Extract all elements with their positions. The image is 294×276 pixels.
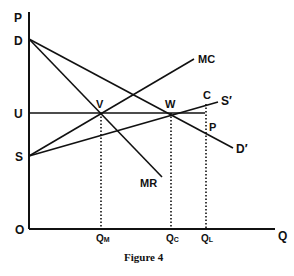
price-label-s: S (15, 150, 23, 164)
curve-label-d-prime: D′ (236, 142, 248, 156)
supply-curve (29, 102, 218, 156)
origin-label: O (15, 223, 24, 237)
point-label-p: P (209, 121, 216, 133)
point-label-w: W (165, 98, 176, 110)
figure-4: P Q O D U S QM QC QL MC S′ D′ MR V W C P… (0, 0, 294, 276)
quantity-label-ql: QL (201, 233, 214, 244)
figure-caption: Figure 4 (124, 251, 164, 263)
y-axis-label: P (14, 11, 22, 25)
price-label-d: D (14, 34, 23, 48)
quantity-label-qm: QM (96, 233, 110, 244)
curve-label-mr: MR (140, 177, 157, 189)
economics-diagram: P Q O D U S QM QC QL MC S′ D′ MR V W C P… (0, 0, 294, 276)
quantity-label-qc: QC (166, 233, 179, 244)
point-label-v: V (96, 98, 104, 110)
x-axis-label: Q (278, 229, 287, 243)
curve-label-s-prime: S′ (221, 94, 232, 108)
curve-label-mc: MC (198, 53, 215, 65)
point-label-c: C (203, 89, 211, 101)
price-label-u: U (14, 107, 23, 121)
